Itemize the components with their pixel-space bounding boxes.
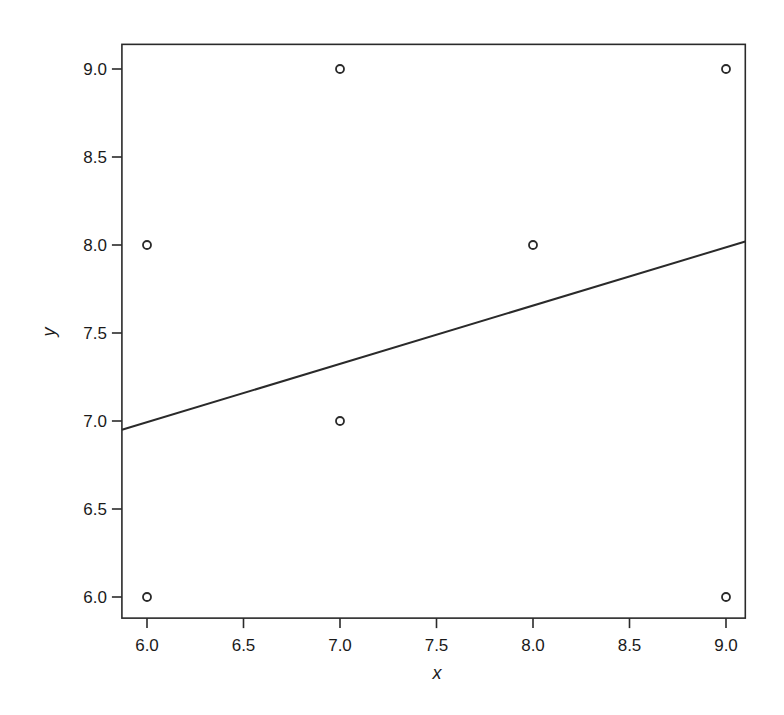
y-tick-label: 7.5 xyxy=(83,324,107,343)
y-axis-label: y xyxy=(39,327,59,339)
x-axis: 6.06.57.07.58.08.59.0 xyxy=(135,618,738,655)
x-tick-label: 8.0 xyxy=(521,636,545,655)
x-tick-label: 8.5 xyxy=(618,636,642,655)
plot-frame xyxy=(122,44,745,618)
data-points xyxy=(143,65,730,601)
data-point-marker xyxy=(143,593,151,601)
y-tick-label: 8.0 xyxy=(83,236,107,255)
x-tick-label: 6.5 xyxy=(232,636,256,655)
regression-line xyxy=(122,241,745,429)
x-tick-label: 9.0 xyxy=(714,636,738,655)
y-axis: 6.06.57.07.58.08.59.0 xyxy=(83,60,122,607)
data-point-marker xyxy=(722,65,730,73)
x-tick-label: 7.5 xyxy=(425,636,449,655)
y-tick-label: 8.5 xyxy=(83,148,107,167)
data-point-marker xyxy=(722,593,730,601)
y-tick-label: 6.5 xyxy=(83,500,107,519)
x-axis-label: x xyxy=(432,663,443,683)
fit-line-segment xyxy=(122,241,745,429)
x-tick-label: 6.0 xyxy=(135,636,159,655)
y-tick-label: 9.0 xyxy=(83,60,107,79)
y-tick-label: 7.0 xyxy=(83,412,107,431)
data-point-marker xyxy=(143,241,151,249)
data-point-marker xyxy=(529,241,537,249)
x-tick-label: 7.0 xyxy=(328,636,352,655)
y-tick-label: 6.0 xyxy=(83,588,107,607)
data-point-marker xyxy=(336,417,344,425)
plot-border xyxy=(122,44,745,618)
scatter-plot: 6.06.57.07.58.08.59.0 6.06.57.07.58.08.5… xyxy=(0,0,784,715)
data-point-marker xyxy=(336,65,344,73)
